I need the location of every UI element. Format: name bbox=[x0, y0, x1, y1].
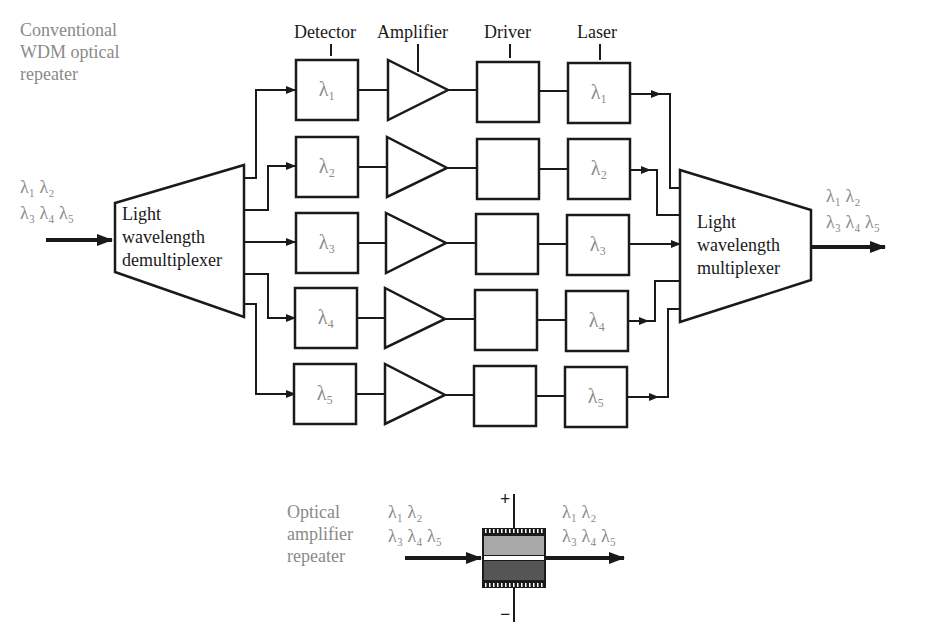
mux-wiring bbox=[627, 94, 680, 397]
header-detector: Detector bbox=[294, 22, 356, 42]
title-line-1: Conventional bbox=[20, 20, 117, 40]
conventional-repeater-label: Conventional WDM optical repeater bbox=[20, 20, 119, 84]
channel-5: λ₅ λ₅ bbox=[294, 364, 627, 427]
laser-3-label: λ₃ bbox=[590, 233, 607, 255]
oa-output-wavelengths-1: λ₁ λ₂ bbox=[562, 502, 597, 522]
plus-sign: + bbox=[500, 489, 510, 509]
oa-label-3: repeater bbox=[287, 546, 345, 566]
oa-label-2: amplifier bbox=[287, 524, 353, 544]
laser-1-label: λ₁ bbox=[591, 81, 608, 103]
mux-label-1: Light bbox=[697, 212, 736, 232]
channel-2: λ₂ λ₂ bbox=[296, 137, 630, 199]
minus-sign: − bbox=[500, 604, 510, 624]
multiplexer: Light wavelength multiplexer bbox=[680, 170, 811, 322]
title-line-3: repeater bbox=[20, 64, 78, 84]
channel-3: λ₃ λ₃ bbox=[296, 213, 629, 275]
input-wavelengths-1: λ₁ λ₂ bbox=[20, 177, 55, 197]
input-wavelengths-2: λ₃ λ₄ λ₅ bbox=[20, 203, 74, 223]
wdm-repeater-diagram: Conventional WDM optical repeater Detect… bbox=[0, 0, 925, 630]
driver-1 bbox=[477, 62, 539, 122]
output-wavelengths-2: λ₃ λ₄ λ₅ bbox=[826, 212, 880, 232]
amplifier-3 bbox=[386, 213, 446, 273]
detector-1-label: λ₁ bbox=[319, 78, 336, 100]
detector-2-label: λ₂ bbox=[319, 155, 336, 177]
channel-1: λ₁ λ₁ bbox=[296, 60, 630, 123]
optical-amplifier-repeater: Optical amplifier repeater λ₁ λ₂ λ₃ λ₄ λ… bbox=[287, 489, 624, 624]
amplifier-5 bbox=[385, 364, 445, 424]
demux-label-1: Light bbox=[122, 204, 161, 224]
detector-4-label: λ₄ bbox=[318, 306, 335, 328]
output-signal: λ₁ λ₂ λ₃ λ₄ λ₅ bbox=[811, 186, 885, 247]
oa-label-1: Optical bbox=[287, 502, 340, 522]
amplifier-device bbox=[482, 528, 546, 588]
amplifier-4 bbox=[385, 288, 445, 348]
amplifier-2 bbox=[387, 137, 447, 197]
mux-label-3: multiplexer bbox=[697, 258, 780, 278]
header-driver: Driver bbox=[484, 22, 531, 42]
laser-4-label: λ₄ bbox=[589, 309, 606, 331]
oa-output-wavelengths-2: λ₃ λ₄ λ₅ bbox=[562, 526, 616, 546]
demultiplexer: Light wavelength demultiplexer bbox=[115, 165, 244, 317]
oa-input-wavelengths-1: λ₁ λ₂ bbox=[388, 502, 423, 522]
laser-2-label: λ₂ bbox=[591, 157, 608, 179]
header-laser: Laser bbox=[577, 22, 617, 42]
oa-input-wavelengths-2: λ₃ λ₄ λ₅ bbox=[388, 526, 442, 546]
detector-5-label: λ₅ bbox=[317, 382, 334, 404]
mux-label-2: wavelength bbox=[697, 235, 780, 255]
channel-4: λ₄ λ₄ bbox=[295, 288, 628, 351]
output-wavelengths-1: λ₁ λ₂ bbox=[826, 186, 861, 206]
driver-3 bbox=[476, 214, 538, 274]
demux-label-3: demultiplexer bbox=[122, 250, 222, 270]
demux-wiring bbox=[244, 90, 295, 394]
title-line-2: WDM optical bbox=[20, 42, 119, 62]
driver-4 bbox=[475, 290, 537, 350]
demux-label-2: wavelength bbox=[122, 227, 205, 247]
driver-2 bbox=[477, 139, 539, 199]
input-signal: λ₁ λ₂ λ₃ λ₄ λ₅ bbox=[20, 177, 112, 240]
detector-3-label: λ₃ bbox=[319, 231, 336, 253]
header-amplifier: Amplifier bbox=[377, 22, 448, 42]
laser-5-label: λ₅ bbox=[588, 385, 605, 407]
driver-5 bbox=[474, 366, 536, 426]
